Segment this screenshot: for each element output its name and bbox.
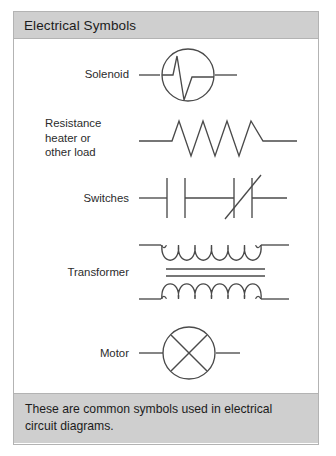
circle-with-pulse-waveform-icon [137, 44, 297, 104]
symbol-label-switches: Switches [14, 191, 131, 206]
symbol-row-solenoid: Solenoid [14, 42, 318, 106]
symbol-row-motor: Motor [14, 318, 318, 388]
symbol-art-transformer [131, 229, 318, 315]
symbol-label-line: heater or [45, 131, 131, 146]
coil-lead-curl [161, 296, 167, 299]
transformer-coils-icon [137, 229, 313, 315]
symbol-row-transformer: Transformer [14, 226, 318, 318]
symbol-row-switches: Switches [14, 170, 318, 226]
zigzag-resistor-icon [137, 112, 307, 164]
symbol-row-resistance-heater: Resistance heater or other load [14, 106, 318, 170]
symbol-art-switches [131, 173, 318, 223]
transformer-primary-coil [162, 245, 261, 260]
coil-lead-curl [256, 245, 262, 248]
symbol-art-motor [131, 322, 318, 384]
symbol-art-solenoid [131, 44, 318, 104]
symbol-label-transformer: Transformer [14, 265, 131, 280]
switch-contacts-icon [137, 173, 309, 223]
figure-caption-bar: These are common symbols used in electri… [14, 393, 318, 443]
symbol-label-solenoid: Solenoid [14, 67, 131, 82]
electrical-symbols-figure-panel: Electrical Symbols Solenoid Resistance h… [13, 11, 319, 445]
figure-title: Electrical Symbols [14, 18, 136, 33]
circle-with-cross-icon [137, 322, 297, 384]
symbol-art-resistance-heater [131, 112, 318, 164]
figure-caption-text: These are common symbols used in electri… [25, 401, 307, 435]
coil-lead-curl [256, 296, 262, 299]
symbol-label-line: Resistance [45, 116, 131, 131]
transformer-secondary-coil [162, 284, 261, 299]
figure-header-bar: Electrical Symbols [14, 12, 318, 39]
symbol-label-motor: Motor [14, 346, 131, 361]
symbol-label-resistance-heater: Resistance heater or other load [14, 116, 131, 160]
symbols-list: Solenoid Resistance heater or other load [14, 39, 318, 393]
symbol-label-line: other load [45, 145, 131, 160]
coil-lead-curl [161, 245, 167, 248]
